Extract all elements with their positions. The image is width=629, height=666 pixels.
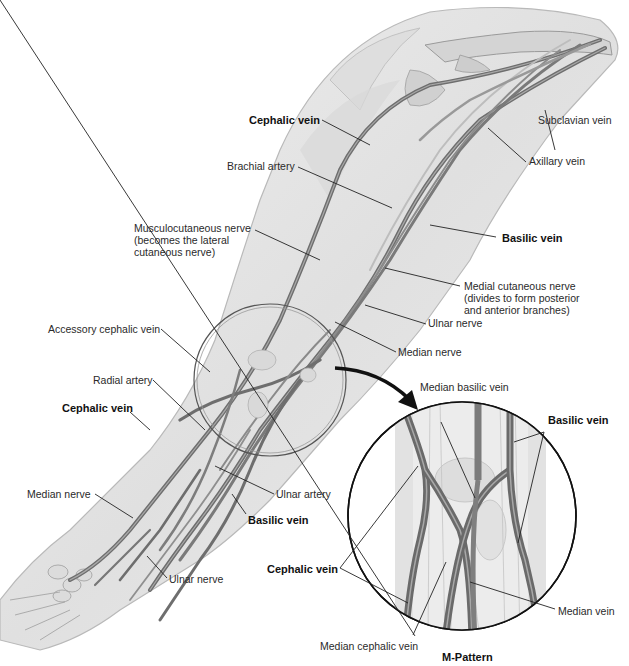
label-basilic-vein-forearm: Basilic vein bbox=[248, 514, 309, 526]
label-medial-cutaneous-nerve: Medial cutaneous nerve (divides to form … bbox=[464, 280, 580, 316]
label-axillary-vein: Axillary vein bbox=[529, 155, 585, 167]
label-cephalic-vein-inset: Cephalic vein bbox=[267, 563, 338, 575]
inset-title-m-pattern: M-Pattern bbox=[442, 651, 493, 663]
label-median-basilic-vein: Median basilic vein bbox=[420, 381, 509, 393]
label-ulnar-nerve-upper: Ulnar nerve bbox=[428, 317, 482, 329]
label-median-nerve-upper: Median nerve bbox=[398, 346, 462, 358]
label-ulnar-nerve-lower: Ulnar nerve bbox=[169, 573, 223, 585]
label-radial-artery: Radial artery bbox=[93, 374, 153, 386]
label-median-vein: Median vein bbox=[558, 605, 615, 617]
label-cephalic-vein-forearm: Cephalic vein bbox=[62, 402, 133, 414]
label-subclavian-vein: Subclavian vein bbox=[538, 114, 612, 126]
label-brachial-artery: Brachial artery bbox=[227, 160, 295, 172]
m-pattern-inset bbox=[348, 400, 576, 640]
label-cephalic-vein-upper: Cephalic vein bbox=[249, 114, 320, 126]
label-median-cephalic-vein: Median cephalic vein bbox=[320, 640, 418, 652]
label-basilic-vein-upper: Basilic vein bbox=[502, 232, 563, 244]
label-ulnar-artery: Ulnar artery bbox=[276, 488, 331, 500]
label-musculocutaneous-nerve: Musculocutaneous nerve (becomes the late… bbox=[134, 222, 251, 258]
arm-vein-anatomy-diagram: Cephalic vein Brachial artery Subclavian… bbox=[0, 0, 629, 666]
label-basilic-vein-inset: Basilic vein bbox=[548, 414, 609, 426]
label-median-nerve-lower: Median nerve bbox=[27, 488, 91, 500]
label-accessory-cephalic-vein: Accessory cephalic vein bbox=[48, 323, 160, 335]
